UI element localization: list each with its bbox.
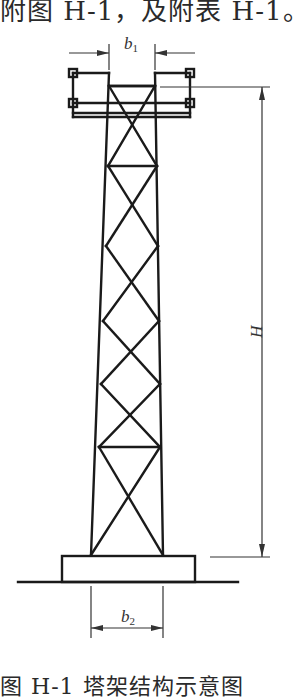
label-b2: b2 xyxy=(121,607,135,627)
figure-caption: 图 H-1 塔架结构示意图 xyxy=(0,668,296,688)
platform xyxy=(69,69,194,117)
dimension-H xyxy=(160,87,270,557)
label-H: H xyxy=(247,324,266,339)
foundation-block xyxy=(62,556,195,582)
label-b1: b1 xyxy=(124,34,138,54)
lattice-tower xyxy=(91,73,163,555)
